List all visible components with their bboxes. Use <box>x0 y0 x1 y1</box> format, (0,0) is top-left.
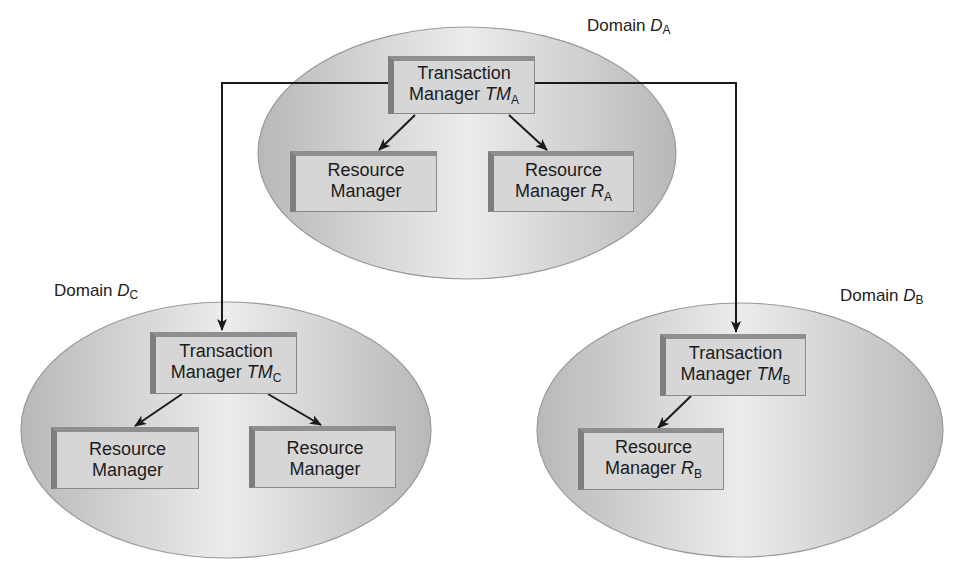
resource-manager-c2: Resource Manager <box>249 426 396 488</box>
transaction-manager-c: Transaction Manager TMC <box>150 332 297 394</box>
transaction-manager-a: Transaction Manager TMA <box>388 56 535 114</box>
domain-b-label: Domain DB <box>840 286 924 307</box>
domain-c-label: Domain DC <box>54 281 138 302</box>
resource-manager-c1: Resource Manager <box>51 427 199 489</box>
domain-a-label: Domain DA <box>587 16 671 37</box>
resource-manager-b1: Resource Manager RB <box>578 428 724 490</box>
resource-manager-a2: Resource Manager RA <box>488 151 634 212</box>
transaction-manager-b: Transaction Manager TMB <box>660 334 806 396</box>
resource-manager-a1: Resource Manager <box>290 151 437 212</box>
